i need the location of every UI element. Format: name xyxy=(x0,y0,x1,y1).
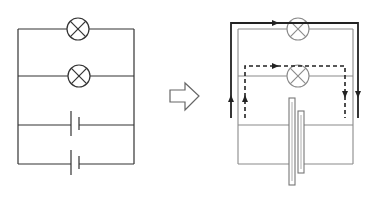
current-arrow-icon xyxy=(242,63,348,102)
cell-icon xyxy=(71,150,79,175)
transform-arrow-icon xyxy=(170,83,199,110)
diagram-stage xyxy=(0,0,375,197)
left-circuit xyxy=(18,18,134,175)
cell-icon xyxy=(71,111,79,136)
lamp-icon xyxy=(68,65,90,87)
lamp-icon xyxy=(287,18,309,40)
merged-cell-icon xyxy=(289,98,304,185)
lamp-icon xyxy=(67,18,89,40)
lamp-icon xyxy=(287,65,309,87)
